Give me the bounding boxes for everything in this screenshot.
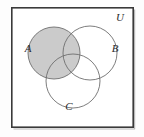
set-label-c: C bbox=[65, 100, 73, 112]
set-label-a: A bbox=[24, 42, 32, 54]
venn-diagram-figure: U A B C bbox=[0, 0, 144, 137]
set-circle-a[interactable] bbox=[28, 27, 80, 79]
venn-diagram-canvas: U A B C bbox=[0, 0, 144, 137]
universal-set-label: U bbox=[116, 11, 125, 23]
set-label-b: B bbox=[112, 42, 119, 54]
